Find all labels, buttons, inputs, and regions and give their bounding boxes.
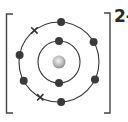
ion-charge-label: 2- [114,8,128,25]
electron-cross-icon [31,27,37,33]
electron-dot-icon [90,38,98,46]
electron-dot-icon [55,37,63,45]
electron-dot-icon [91,76,99,84]
electron-dot-icon [57,98,65,106]
right-bracket [104,13,110,113]
left-bracket [7,14,14,113]
electron-dot-icon [16,51,24,59]
nucleus [53,56,66,69]
electron-dot-icon [57,18,65,26]
electron-dot-icon [20,77,28,85]
electron-cross-icon [37,94,43,100]
atom-diagram [0,0,128,122]
electron-dot-icon [55,79,63,87]
